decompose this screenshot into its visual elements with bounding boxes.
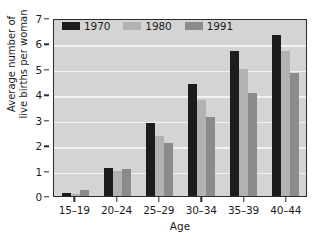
bar <box>62 193 71 196</box>
legend-item: 1970 <box>62 21 110 32</box>
plot-area <box>53 19 307 197</box>
y-tick-mark <box>44 44 49 45</box>
bar <box>71 194 80 196</box>
y-tick-label: 5 <box>35 65 42 76</box>
y-tick-mark <box>44 69 49 70</box>
x-tick-label: 20–24 <box>95 204 137 216</box>
x-tick-mark <box>285 197 286 202</box>
x-tick-label: 40–44 <box>265 204 307 216</box>
y-tick-mark <box>44 196 49 197</box>
x-axis-title: Age <box>53 220 307 232</box>
bar <box>272 35 281 196</box>
y-tick-mark <box>44 18 49 19</box>
bar <box>248 93 257 196</box>
bar-group <box>222 20 264 196</box>
bar <box>104 168 113 196</box>
bar <box>113 171 122 196</box>
y-tick-label: 0 <box>35 192 42 203</box>
bar <box>80 190 89 196</box>
x-tick-label: 15–19 <box>53 204 95 216</box>
x-tick-mark <box>243 197 244 202</box>
bar-group <box>264 20 306 196</box>
y-tick-label: 1 <box>35 166 42 177</box>
bar <box>146 123 155 196</box>
bars-layer <box>54 20 306 196</box>
legend-label: 1991 <box>207 21 233 32</box>
x-tick-mark <box>73 197 74 202</box>
bar-group <box>180 20 222 196</box>
x-tick-labels: 15–1920–2425–2930–3435–3940–44 <box>53 204 307 216</box>
bar-group <box>96 20 138 196</box>
x-tick-marks <box>53 197 307 202</box>
bar <box>155 136 164 196</box>
legend-item: 1991 <box>185 21 233 32</box>
bar <box>230 51 239 196</box>
bar-group <box>54 20 96 196</box>
x-tick-mark <box>116 197 117 202</box>
y-tick-mark <box>44 171 49 172</box>
legend-swatch <box>123 22 141 30</box>
legend-label: 1970 <box>84 21 110 32</box>
legend-item: 1980 <box>123 21 171 32</box>
x-tick-label: 35–39 <box>222 204 264 216</box>
y-tick-mark <box>44 95 49 96</box>
chart-figure: Average number of live births per woman … <box>0 0 321 248</box>
bar <box>290 73 299 196</box>
x-tick-label: 30–34 <box>180 204 222 216</box>
bar-group <box>138 20 180 196</box>
bar <box>122 169 131 196</box>
bar <box>188 84 197 196</box>
bar <box>281 51 290 196</box>
y-tick-mark <box>44 145 49 146</box>
bar <box>239 69 248 196</box>
y-tick-label: 7 <box>35 14 42 25</box>
legend-label: 1980 <box>145 21 171 32</box>
x-axis: 15–1920–2425–2930–3435–3940–44 Age <box>53 197 307 232</box>
x-tick-mark <box>158 197 159 202</box>
y-tick-label: 4 <box>35 90 42 101</box>
y-tick-label: 6 <box>35 39 42 50</box>
legend-swatch <box>62 22 80 30</box>
bar <box>197 100 206 196</box>
legend-swatch <box>185 22 203 30</box>
y-tick-label: 2 <box>35 141 42 152</box>
chart-legend: 197019801991 <box>62 21 233 32</box>
y-axis: 01234567 <box>0 0 53 248</box>
x-tick-label: 25–29 <box>138 204 180 216</box>
x-tick-mark <box>200 197 201 202</box>
bar <box>164 143 173 196</box>
y-tick-label: 3 <box>35 115 42 126</box>
y-tick-mark <box>44 120 49 121</box>
bar <box>206 117 215 196</box>
